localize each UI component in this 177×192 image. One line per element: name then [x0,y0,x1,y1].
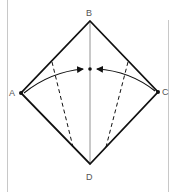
label-b: B [86,9,92,18]
label-d: D [86,173,93,182]
point-c-dot-icon [156,90,160,94]
fold-diagram [0,0,177,192]
center-dot-icon [88,67,92,71]
point-a-dot-icon [19,91,23,95]
paper-outline [21,21,158,164]
label-c: C [162,88,169,97]
label-a: A [9,89,15,98]
